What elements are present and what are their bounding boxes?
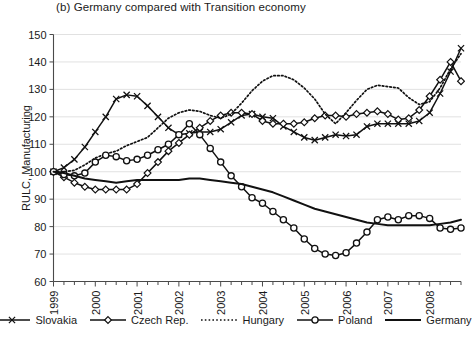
legend-swatch-diamond-marker-line (89, 314, 127, 326)
series-slovakia (50, 45, 464, 175)
legend-swatch-circle-marker-line (296, 314, 334, 326)
legend-label: Germany (426, 314, 471, 326)
series-czech-rep (50, 59, 464, 193)
legend-item-poland[interactable]: Poland (290, 314, 378, 326)
x-axis-ticks (54, 282, 462, 287)
legend-swatch-x-marker-line (0, 314, 31, 326)
y-tick-label: 60 (34, 276, 46, 288)
y-tick-label: 70 (34, 248, 46, 260)
y-tick-label: 150 (28, 29, 46, 41)
y-tick-label: 140 (28, 56, 46, 68)
legend-label: Czech Rep. (131, 314, 188, 326)
y-tick-label: 100 (28, 166, 46, 178)
chart-legend: SlovakiaCzech Rep.HungaryPolandGermany (0, 307, 465, 333)
legend-swatch-solid-line (384, 314, 422, 326)
y-tick-label: 80 (34, 221, 46, 233)
y-tick-label: 130 (28, 83, 46, 95)
series-path (54, 48, 462, 172)
y-tick-label: 110 (29, 138, 47, 150)
legend-label: Hungary (242, 314, 284, 326)
legend-swatch-dotted-line (200, 314, 238, 326)
legend-item-czech-rep[interactable]: Czech Rep. (83, 314, 194, 326)
legend-item-germany[interactable]: Germany (378, 314, 476, 326)
legend-item-slovakia[interactable]: Slovakia (0, 314, 83, 326)
y-tick-label: 90 (34, 193, 46, 205)
y-axis-ticks: 60708090100110120130140150 (28, 29, 53, 288)
legend-label: Slovakia (35, 314, 77, 326)
y-tick-label: 120 (28, 111, 46, 123)
legend-label: Poland (338, 314, 372, 326)
legend-item-hungary[interactable]: Hungary (194, 314, 290, 326)
